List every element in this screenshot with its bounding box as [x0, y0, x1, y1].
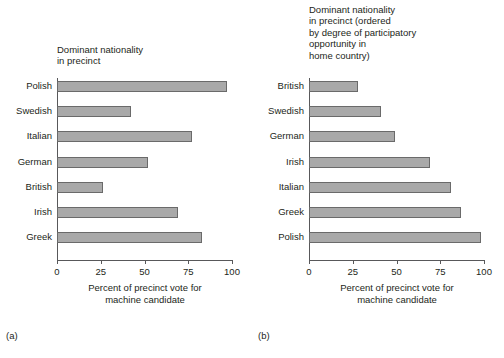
category-label-polish: Polish	[26, 80, 52, 91]
chart-panel-b: Dominant nationality in precinct (ordere…	[252, 0, 504, 358]
category-label-german: German	[270, 130, 304, 141]
bar-irish	[309, 157, 430, 168]
category-label-polish: Polish	[278, 231, 304, 242]
category-label-british: British	[278, 80, 304, 91]
bar-polish	[57, 81, 227, 92]
x-tick-label-0: 0	[306, 266, 311, 277]
category-label-swedish: Swedish	[268, 105, 304, 116]
x-tick-label-75: 75	[183, 266, 194, 277]
x-tick-25	[353, 260, 354, 264]
x-tick-label-100: 100	[476, 266, 492, 277]
x-tick-label-25: 25	[95, 266, 106, 277]
x-tick-label-50: 50	[391, 266, 402, 277]
bar-british	[309, 81, 358, 92]
chart-title-b: Dominant nationality in precinct (ordere…	[309, 4, 416, 61]
category-label-greek: Greek	[26, 231, 52, 242]
plot-area-a: PolishSwedishItalianGermanBritishIrishGr…	[57, 78, 232, 260]
bar-swedish	[57, 106, 131, 117]
category-label-british: British	[26, 181, 52, 192]
bar-irish	[57, 207, 178, 218]
bar-german	[309, 131, 395, 142]
x-tick-50	[145, 260, 146, 264]
chart-title-a: Dominant nationality in precinct	[57, 44, 143, 67]
x-tick-label-75: 75	[435, 266, 446, 277]
x-axis-title-b: Percent of precinct vote for machine can…	[282, 282, 504, 305]
bar-italian	[57, 131, 192, 142]
bar-swedish	[309, 106, 381, 117]
category-label-german: German	[18, 156, 52, 167]
x-tick-75	[188, 260, 189, 264]
x-tick-50	[397, 260, 398, 264]
category-label-greek: Greek	[278, 206, 304, 217]
panel-caption-a: (a)	[6, 330, 18, 341]
category-label-italian: Italian	[279, 181, 304, 192]
bar-german	[57, 157, 148, 168]
category-label-swedish: Swedish	[16, 105, 52, 116]
x-axis-title-a: Percent of precinct vote for machine can…	[30, 282, 260, 305]
bar-greek	[309, 207, 461, 218]
x-tick-25	[101, 260, 102, 264]
x-tick-label-50: 50	[139, 266, 150, 277]
category-label-irish: Irish	[286, 156, 304, 167]
chart-panel-a: Dominant nationality in precinct PolishS…	[0, 0, 252, 358]
x-tick-label-0: 0	[54, 266, 59, 277]
bar-italian	[309, 182, 451, 193]
x-tick-100	[232, 260, 233, 264]
category-label-irish: Irish	[34, 206, 52, 217]
bar-polish	[309, 232, 481, 243]
x-tick-label-100: 100	[224, 266, 240, 277]
x-tick-75	[440, 260, 441, 264]
category-label-italian: Italian	[27, 130, 52, 141]
bar-british	[57, 182, 103, 193]
plot-area-b: BritishSwedishGermanIrishItalianGreekPol…	[309, 78, 484, 260]
x-tick-0	[57, 260, 58, 264]
x-tick-0	[309, 260, 310, 264]
panel-caption-b: (b)	[258, 330, 270, 341]
x-tick-label-25: 25	[347, 266, 358, 277]
bar-greek	[57, 232, 202, 243]
x-tick-100	[484, 260, 485, 264]
